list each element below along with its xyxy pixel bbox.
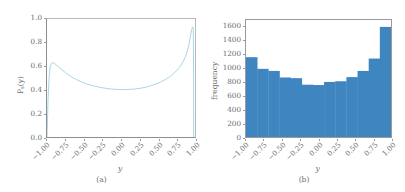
panel-b-x-tickmark — [282, 139, 283, 141]
panel-b-y-tickmark — [243, 82, 245, 83]
panel-b-x-tickmark — [374, 139, 375, 141]
panel-b-y-tickmark — [243, 96, 245, 97]
panel-b-y-tickmark — [243, 68, 245, 69]
panel-a-x-tickmark — [140, 139, 141, 141]
panel-b-x-tickmark — [392, 139, 393, 141]
panel-a-plot-area — [46, 18, 196, 138]
panel-a-x-tickmark — [84, 139, 85, 141]
panel-a-x-tickmark — [121, 139, 122, 141]
histogram-bar — [335, 81, 347, 137]
histogram-bar — [302, 85, 314, 137]
panel-a-x-tickmark — [159, 139, 160, 141]
histogram-bar — [313, 85, 325, 137]
panel-b-x-tickmark — [263, 139, 264, 141]
histogram-bar — [324, 82, 336, 137]
panel-a-y-tick: 0.6 — [0, 62, 42, 69]
panel-a-y-tickmark — [44, 42, 46, 43]
panel-a-x-tickmark — [102, 139, 103, 141]
panel-a-y-tickmark — [44, 90, 46, 91]
panel-a-y-tickmark — [44, 66, 46, 67]
panel-a-x-tickmark — [46, 139, 47, 141]
histogram-bar — [358, 71, 370, 137]
histogram-bar — [380, 27, 391, 137]
histogram-bar — [346, 77, 358, 137]
panel-b-y-tick: 800 — [203, 78, 241, 85]
panel-b-y-tick: 200 — [203, 120, 241, 127]
panel-b-x-tickmark — [300, 139, 301, 141]
probability-density-curve — [47, 27, 194, 137]
panel-b-x-axis-label: y — [316, 165, 320, 173]
panel-a-caption: (a) — [0, 176, 203, 184]
panel-a-y-tick: 0.4 — [0, 86, 42, 93]
panel-b-y-tickmark — [243, 110, 245, 111]
panel-a-x-tickmark — [65, 139, 66, 141]
panel-b-plot-area — [245, 19, 392, 138]
histogram-bar — [291, 78, 303, 137]
panel-a-x-tickmark — [196, 139, 197, 141]
panel-a: Ps(y) 0.00.20.40.60.81.0 −1.00−0.75−0.50… — [0, 0, 203, 192]
panel-a-y-tickmark — [44, 18, 46, 19]
panel-a-x-axis-label: y — [118, 165, 122, 173]
panel-a-x-tickmark — [177, 139, 178, 141]
panel-b-y-tick: 1600 — [203, 22, 241, 29]
panel-b-x-tickmark — [355, 139, 356, 141]
panel-a-y-axis-label-arg: (y) — [16, 76, 25, 86]
panel-b-y-tick: 400 — [203, 106, 241, 113]
histogram-bar — [257, 69, 269, 137]
panel-a-y-tick: 0.8 — [0, 38, 42, 45]
panel-b-y-tickmark — [243, 40, 245, 41]
panel-b: frequency 02004006008001000120014001600 … — [203, 0, 405, 192]
panel-b-y-tick: 1200 — [203, 50, 241, 57]
panel-b-y-tickmark — [243, 26, 245, 27]
figure-container: Ps(y) 0.00.20.40.60.81.0 −1.00−0.75−0.50… — [0, 0, 405, 192]
panel-b-x-tickmark — [319, 139, 320, 141]
histogram-bar — [279, 77, 291, 137]
histogram-bar — [246, 57, 258, 137]
panel-b-x-tickmark — [245, 139, 246, 141]
histogram-bars — [246, 27, 391, 137]
panel-a-y-tickmark — [44, 114, 46, 115]
panel-b-y-tick: 1000 — [203, 64, 241, 71]
panel-b-y-tick: 1400 — [203, 36, 241, 43]
panel-b-x-tickmark — [337, 139, 338, 141]
panel-a-y-tick: 0.2 — [0, 110, 42, 117]
panel-b-y-tick: 0 — [203, 134, 241, 141]
panel-b-histogram-svg — [246, 20, 391, 137]
panel-a-y-tick: 1.0 — [0, 14, 42, 21]
panel-b-y-tick: 600 — [203, 92, 241, 99]
panel-a-y-tick: 0.0 — [0, 134, 42, 141]
histogram-bar — [268, 71, 280, 137]
panel-b-y-tickmark — [243, 54, 245, 55]
panel-b-y-tickmark — [243, 124, 245, 125]
histogram-bar — [369, 59, 381, 137]
panel-b-caption: (b) — [203, 176, 405, 184]
panel-a-curve-svg — [47, 19, 195, 137]
